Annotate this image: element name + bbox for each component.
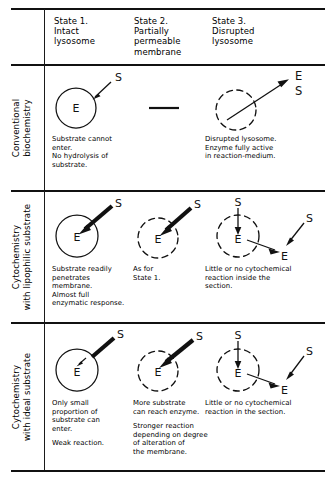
vrule-header xyxy=(44,9,45,64)
substrate-label: S xyxy=(295,84,302,98)
caption-line: depending on degree xyxy=(133,431,209,440)
enzyme-label-outside: E xyxy=(281,250,288,263)
caption-r1c1: Substrate cannot enter. No hydrolysis of… xyxy=(52,135,128,169)
vrule-row3 xyxy=(44,323,45,470)
caption-line: As for xyxy=(133,265,207,274)
substrate-outside-arrow xyxy=(286,223,304,246)
caption-r3c3: Little or no cytochemical reaction in th… xyxy=(205,399,327,416)
state3-title: State 3. xyxy=(212,16,254,26)
caption-line: membrane. xyxy=(52,282,128,291)
diagram-r1c1: E S xyxy=(52,70,128,134)
row-label-conventional-biochemistry: Conventional biochemistry xyxy=(0,65,44,190)
caption-line: Enzyme fully active xyxy=(205,144,325,153)
substrate-label-right: S xyxy=(306,212,313,225)
caption-line: Little or no cytochemical xyxy=(205,265,327,274)
caption-line: reaction in the section. xyxy=(205,408,327,417)
substrate-label: S xyxy=(117,328,124,341)
caption-line: the membrane. xyxy=(133,448,209,457)
enzyme-diffusion-arrow xyxy=(247,374,280,388)
enzyme-diffusion-arrow xyxy=(247,240,280,254)
caption-line: Substrate cannot enter. xyxy=(52,135,128,152)
row-label-cytochemistry-ideal: Cytochemistry with ideal substrate xyxy=(0,323,44,470)
rule-row1-row2 xyxy=(11,190,325,192)
cell-r1c3: E S Disrupted lysosome. Enzyme fully act… xyxy=(205,70,325,188)
caption-line: reaction inside the xyxy=(205,274,327,283)
substrate-penetrating-arrow xyxy=(160,208,192,236)
cell-r3c3: S E E S Little or no cytochemical reacti… xyxy=(205,328,327,468)
caption-line: Stronger reaction xyxy=(133,422,209,431)
caption-line: Only small xyxy=(52,399,128,408)
diagram-r1c3: E S xyxy=(205,70,325,134)
substrate-penetrating-arrow xyxy=(79,206,113,235)
caption-line: can reach enzyme. xyxy=(133,408,209,417)
substrate-label: S xyxy=(115,197,122,210)
substrate-label-top: S xyxy=(235,329,242,342)
row1-label-line2: biochemistry xyxy=(22,98,33,156)
row3-label-line1: Cytochemistry xyxy=(11,364,21,428)
caption-r3c1: Only small proportion of substrate can e… xyxy=(52,399,128,448)
diagram-r3c1: S E xyxy=(52,328,128,398)
caption-line: State 1. xyxy=(133,274,207,283)
cell-r1c2 xyxy=(137,70,207,188)
vrule-row2 xyxy=(44,191,45,322)
substrate-blocked-arrow xyxy=(92,338,114,357)
cell-r3c1: S E Only small proportion of substrate c… xyxy=(52,328,128,468)
state2-line2: Partially xyxy=(134,26,181,36)
caption-line: substrate can xyxy=(52,416,128,425)
column-header-state1: State 1. Intact lysosome xyxy=(54,16,95,47)
row-label-cytochemistry-lipophilic: Cytochemistry with lipophilic substrate xyxy=(0,191,44,322)
enzyme-label-outside: E xyxy=(281,384,288,397)
caption-line: proportion of xyxy=(52,408,128,417)
caption-line: in reaction-medium. xyxy=(205,152,325,161)
row2-label-line1: Cytochemistry xyxy=(11,224,21,288)
substrate-label: S xyxy=(115,71,122,84)
caption-line: section. xyxy=(205,282,327,291)
enzyme-label: E xyxy=(155,366,162,379)
caption-r1c3: Disrupted lysosome. Enzyme fully active … xyxy=(205,135,325,161)
caption-line: Weak reaction. xyxy=(52,439,128,448)
column-headers: State 1. Intact lysosome State 2. Partia… xyxy=(46,16,325,62)
diagram-r3c3: S E E S xyxy=(205,328,327,398)
escape-arrow xyxy=(227,79,289,120)
rule-row2-row3 xyxy=(11,322,325,324)
caption-r2c1: Substrate readily penetrates membrane. A… xyxy=(52,265,128,308)
state2-title: State 2. xyxy=(134,16,181,26)
row2-label-line2: with lipophilic substrate xyxy=(22,203,33,309)
diagram-r2c1: S E xyxy=(52,196,128,264)
state2-line4: membrane xyxy=(134,47,181,57)
disrupted-lysosome-membrane xyxy=(216,90,256,130)
state1-title: State 1. xyxy=(54,16,95,26)
substrate-arrow xyxy=(93,82,112,100)
vrule-row1 xyxy=(44,65,45,190)
substrate-label-top: S xyxy=(235,196,242,209)
figure-sheet: State 1. Intact lysosome State 2. Partia… xyxy=(0,0,331,481)
enzyme-label: E xyxy=(73,102,80,115)
diagram-r1c2 xyxy=(137,70,207,134)
state1-line2: Intact xyxy=(54,26,95,36)
diagram-r2c3: S E E S xyxy=(205,196,327,264)
cell-r2c1: S E Substrate readily penetrates membran… xyxy=(52,196,128,320)
caption-line: Substrate readily xyxy=(52,265,128,274)
rule-bottom xyxy=(11,470,325,472)
diagram-r3c2: S E xyxy=(133,328,209,398)
caption-line: of alteration of xyxy=(133,439,209,448)
substrate-label-right: S xyxy=(306,345,313,358)
substrate-entering-arrow xyxy=(235,208,242,235)
caption-r3c2: More substrate can reach enzyme. Stronge… xyxy=(133,399,209,457)
cell-r3c2: S E More substrate can reach enzyme. Str… xyxy=(133,328,209,468)
state1-line3: lysosome xyxy=(54,36,95,46)
caption-line: substrate. xyxy=(52,161,128,170)
column-header-state3: State 3. Disrupted lysosome xyxy=(212,16,254,47)
caption-r2c3: Little or no cytochemical reaction insid… xyxy=(205,265,327,291)
row3-label-line2: with ideal substrate xyxy=(22,352,33,440)
substrate-outside-arrow xyxy=(286,356,304,380)
state2-line3: permeable xyxy=(134,36,181,46)
substrate-label: S xyxy=(196,330,203,343)
caption-line: Disrupted lysosome. xyxy=(205,135,325,144)
caption-line: No hydrolysis of xyxy=(52,152,128,161)
caption-line: Almost full xyxy=(52,291,128,300)
cell-r2c2: S E As for State 1. xyxy=(133,196,207,320)
enzyme-label: E xyxy=(74,231,81,244)
enzyme-label-inside: E xyxy=(235,233,242,246)
substrate-entering-arrow xyxy=(235,341,242,369)
